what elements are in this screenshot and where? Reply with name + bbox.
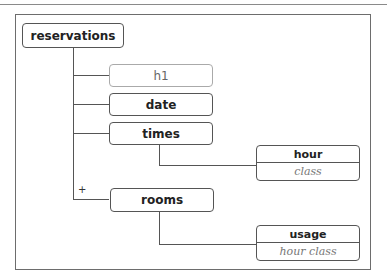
- node-h1[interactable]: h1: [109, 64, 213, 87]
- root-trunk: [73, 38, 74, 199]
- connector-hour: [159, 165, 256, 166]
- node-reservations[interactable]: reservations: [22, 23, 124, 48]
- node-usage-class: hour class: [257, 243, 359, 260]
- connector-date: [73, 104, 109, 105]
- node-hour-title: hour: [257, 146, 359, 163]
- node-hour-class: class: [257, 163, 359, 180]
- top-divider: [0, 4, 387, 5]
- node-times[interactable]: times: [109, 122, 213, 145]
- connector-usage: [159, 244, 256, 245]
- node-hour[interactable]: hour class: [256, 145, 360, 181]
- times-branch: [159, 143, 160, 165]
- node-rooms[interactable]: rooms: [110, 188, 214, 212]
- connector-h1: [73, 75, 109, 76]
- expand-marker[interactable]: +: [78, 184, 86, 195]
- node-date[interactable]: date: [109, 93, 213, 116]
- rooms-branch: [159, 210, 160, 244]
- node-usage-title: usage: [257, 226, 359, 243]
- connector-times: [73, 133, 109, 134]
- connector-rooms: [73, 199, 109, 200]
- node-usage[interactable]: usage hour class: [256, 225, 360, 261]
